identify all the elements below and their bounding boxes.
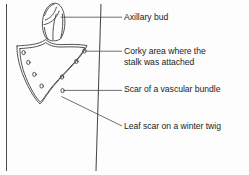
- label-vascular-bundle: Scar of a vascular bundle: [124, 84, 220, 95]
- bundle-scar: [40, 84, 43, 88]
- bundle-scar: [27, 60, 30, 64]
- leaf-scar-group: [17, 40, 87, 104]
- leaf-scar-outline: [17, 40, 87, 104]
- label-axillary-bud-line1: Axillary bud: [124, 12, 168, 22]
- label-axillary-bud: Axillary bud: [124, 12, 168, 23]
- label-vascular-bundle-line1: Scar of a vascular bundle: [124, 84, 220, 94]
- label-corky-area-line2: stalk was attached: [124, 57, 246, 68]
- bundle-scar: [33, 72, 36, 76]
- leaf-scar-inner-outline: [20, 43, 85, 102]
- axillary-bud-group: [42, 3, 65, 41]
- figure-root: Axillary bud Corky area where the stalk …: [0, 0, 249, 175]
- twig-right-edge-line: [96, 4, 101, 171]
- label-leaf-scar-line1: Leaf scar on a winter twig: [124, 121, 221, 131]
- label-corky-area-line1: Corky area where the: [124, 46, 246, 57]
- bud-scale-crease-b: [44, 11, 59, 25]
- bundle-scar: [22, 51, 25, 55]
- twig-group: [7, 4, 102, 171]
- label-leaf-scar: Leaf scar on a winter twig: [124, 121, 221, 132]
- leader-lines-group: [61, 17, 123, 126]
- leader-leaf-scar: [62, 97, 123, 127]
- label-corky-area: Corky area where the stalk was attached: [124, 46, 246, 67]
